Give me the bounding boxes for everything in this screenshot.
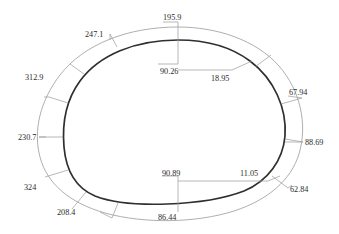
dimension-88-69: 88.69 (305, 139, 323, 147)
tunnel-cross-section-drawing (0, 0, 339, 234)
dimension-324: 324 (24, 184, 36, 192)
dimension-90-89: 90.89 (162, 170, 180, 178)
inner-tunnel-outline (64, 40, 286, 204)
dimension-312-9: 312.9 (25, 74, 43, 82)
dimension-62-84: 62.84 (290, 186, 308, 194)
dimension-90-26: 90.26 (160, 68, 178, 76)
dimension-67-94: 67.94 (289, 89, 307, 97)
dimension-247-1: 247.1 (85, 31, 103, 39)
dimension-86-44: 86.44 (158, 214, 176, 222)
dimension-208-4: 208.4 (57, 209, 75, 217)
dimension-18-95: 18.95 (211, 75, 229, 83)
dimension-230-7: 230.7 (18, 134, 36, 142)
dimension-195-9: 195.9 (163, 14, 181, 22)
dimension-11-05: 11.05 (240, 170, 258, 178)
